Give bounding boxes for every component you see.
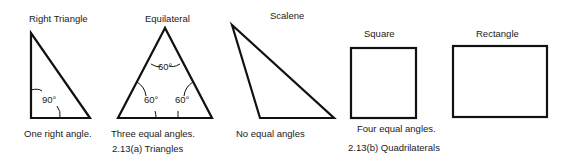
right-triangle-shape — [31, 33, 90, 118]
scalene-triangle-shape — [232, 25, 334, 118]
right-angle-arc-top — [31, 89, 42, 91]
caption-triangles: 2.13(a) Triangles — [112, 143, 183, 154]
title-scalene: Scalene — [270, 10, 304, 21]
desc-right-triangle: One right angle. — [24, 128, 92, 139]
title-right-triangle: Right Triangle — [29, 13, 88, 24]
rectangle-shape — [453, 46, 547, 117]
angle-label-eq-right: 60° — [175, 95, 189, 105]
desc-equilateral: Three equal angles. — [111, 128, 195, 139]
title-rectangle: Rectangle — [476, 28, 519, 39]
angle-label-eq-left: 60° — [144, 95, 158, 105]
desc-quadrilaterals: Four equal angles. — [357, 123, 436, 134]
angle-label-eq-top: 60° — [158, 62, 172, 72]
angle-label-90: 90° — [42, 95, 56, 105]
shapes-diagram — [0, 0, 578, 165]
square-shape — [351, 48, 416, 118]
desc-scalene: No equal angles — [236, 128, 305, 139]
right-angle-arc-bottom — [57, 106, 60, 118]
title-equilateral: Equilateral — [145, 13, 190, 24]
title-square: Square — [364, 28, 395, 39]
caption-quadrilaterals: 2.13(b) Quadrilaterals — [348, 142, 440, 153]
equilateral-triangle-shape — [118, 28, 212, 118]
